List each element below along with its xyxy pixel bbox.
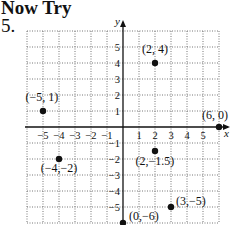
data-point	[152, 60, 158, 66]
y-tick-label: −2	[109, 154, 120, 165]
data-point	[40, 108, 46, 114]
y-tick-label: −4	[109, 186, 121, 197]
point-label: (−5, 1)	[26, 90, 59, 104]
point-label: (6, 0)	[202, 108, 228, 122]
x-tick-label: −5	[37, 130, 48, 141]
data-point	[120, 220, 126, 225]
y-tick-label: 2	[115, 90, 120, 101]
y-tick-label: 4	[115, 58, 121, 69]
x-tick-label: 2	[152, 130, 157, 141]
y-tick-label: −3	[109, 170, 120, 181]
x-axis-label: x	[223, 127, 229, 139]
y-tick-label: −5	[109, 202, 120, 213]
x-tick-label: 4	[184, 130, 190, 141]
point-label: (−4,−2)	[41, 161, 78, 175]
point-label: (2,−1.5)	[136, 154, 175, 168]
y-tick-label: 3	[115, 74, 120, 85]
data-point	[216, 124, 222, 130]
y-tick-label: 1	[115, 106, 120, 117]
y-axis-arrow-icon	[120, 20, 126, 27]
data-point	[168, 204, 174, 210]
point-label: (3,−5)	[176, 194, 206, 208]
point-label: (0,−6)	[129, 209, 159, 223]
x-tick-label: 5	[200, 130, 205, 141]
x-tick-label: −3	[69, 130, 80, 141]
x-tick-label: 3	[168, 130, 173, 141]
y-axis-label: y	[114, 15, 120, 27]
x-tick-label: −4	[53, 130, 65, 141]
coordinate-plane: xy −5−4−3−2−11234554321−1−2−3−4−5 (2, 4)…	[0, 0, 234, 225]
y-tick-label: −1	[109, 138, 120, 149]
x-tick-label: −2	[85, 130, 96, 141]
y-tick-label: 5	[115, 42, 120, 53]
point-label: (2, 4)	[142, 42, 168, 56]
x-tick-label: 1	[136, 130, 141, 141]
